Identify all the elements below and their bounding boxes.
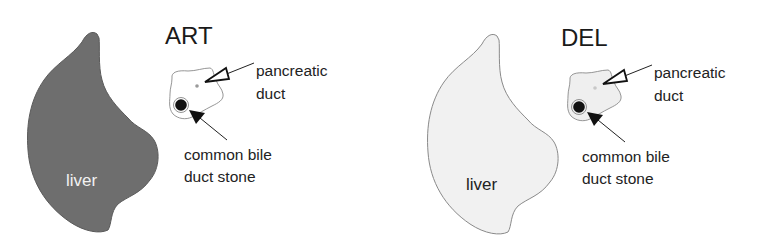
panel-del: DEL liver pancreatic duct common bile du… [428, 24, 726, 234]
stone-label-art-line1: common bile [184, 146, 272, 163]
stone-label-art-line2: duct stone [184, 168, 256, 185]
liver-shape-del [428, 34, 559, 234]
pancreatic-duct-label-del-line2: duct [654, 87, 684, 104]
stone-label-del-line2: duct stone [582, 170, 654, 187]
diagram-canvas: ART liver pancreatic duct common bile du… [0, 0, 758, 237]
pancreatic-duct-arrow-line-del [622, 65, 652, 77]
pancreatic-duct-arrow-line-art [224, 63, 254, 75]
panel-title-del: DEL [561, 24, 608, 51]
pancreatic-duct-label-art-line2: duct [256, 85, 286, 102]
stone-label-del-line1: common bile [582, 148, 670, 165]
panel-art: ART liver pancreatic duct common bile du… [28, 22, 328, 232]
liver-label-art: liver [66, 171, 98, 190]
pancreatic-duct-dot-art [195, 84, 199, 88]
stone-art [175, 99, 187, 111]
liver-shape-art [28, 32, 159, 232]
stone-del [573, 101, 585, 113]
liver-label-del: liver [466, 175, 498, 194]
pancreatic-duct-label-art-line1: pancreatic [256, 62, 328, 79]
stone-arrow-line-art [200, 118, 227, 140]
pancreatic-duct-dot-del [593, 86, 597, 90]
pancreatic-duct-label-del-line1: pancreatic [654, 64, 726, 81]
panel-title-art: ART [165, 22, 213, 49]
stone-arrow-line-del [598, 120, 625, 142]
